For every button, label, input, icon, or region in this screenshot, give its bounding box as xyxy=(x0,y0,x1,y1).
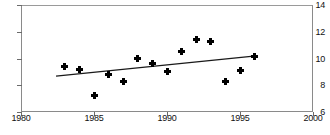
data-point xyxy=(91,92,98,99)
data-point xyxy=(134,55,141,62)
data-point xyxy=(178,48,185,55)
data-point xyxy=(149,60,156,67)
data-point xyxy=(76,66,83,73)
data-point xyxy=(193,36,200,43)
data-point xyxy=(164,68,171,75)
data-point xyxy=(222,78,229,85)
data-point xyxy=(207,38,214,45)
data-point xyxy=(61,63,68,70)
data-point xyxy=(105,71,112,78)
data-point xyxy=(120,78,127,85)
data-point xyxy=(237,67,244,74)
data-point xyxy=(251,53,258,60)
